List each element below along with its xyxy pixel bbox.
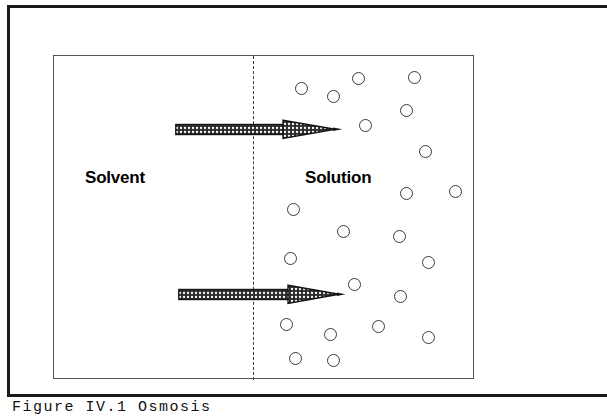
solute-particle [393,230,406,243]
solute-particle [372,320,385,333]
osmosis-diagram-box [53,55,474,379]
solute-particle [284,252,297,265]
solute-particle [400,104,413,117]
solute-particle [422,331,435,344]
solute-particle [327,90,340,103]
solute-particle [327,354,340,367]
solute-particle [287,203,300,216]
solute-particle [400,187,413,200]
solute-particle [422,256,435,269]
solute-particle [419,145,432,158]
solute-particle [280,318,293,331]
region-label-solution: Solution [305,168,371,188]
solute-particle [394,290,407,303]
solute-particle [295,82,308,95]
solute-particle [352,72,365,85]
solute-particle [359,119,372,132]
flow-arrow-top [175,118,343,144]
solute-particle [348,278,361,291]
solute-particle [408,71,421,84]
region-label-solvent: Solvent [85,168,145,188]
solute-particle [324,328,337,341]
figure-caption: Figure IV.1 Osmosis [12,399,212,416]
solute-particle [289,352,302,365]
solute-particle [337,225,350,238]
flow-arrow-bottom [178,283,346,309]
solute-particle [449,185,462,198]
semipermeable-membrane-line [253,56,254,380]
